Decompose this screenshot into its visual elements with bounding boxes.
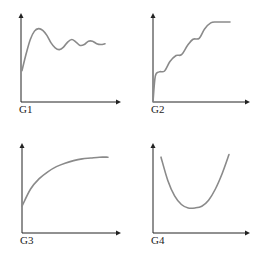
graph-label: G4 [151,234,165,246]
curve-saturating-growth [22,157,108,206]
y-axis-arrow-icon [151,13,156,18]
curve-u-shaped [161,155,229,209]
graph-g3: G3 [20,143,122,246]
graph-label: G3 [20,234,34,246]
x-axis-arrow-icon [245,231,250,236]
four-graphs-figure: G1G2G3G4 [0,0,278,255]
x-axis-arrow-icon [245,100,250,105]
graph-label: G2 [151,103,164,115]
y-axis-arrow-icon [20,143,25,148]
graph-g4: G4 [151,143,251,246]
curve-damped-oscillation [22,29,105,71]
graph-g1: G1 [19,13,122,115]
y-axis-arrow-icon [151,143,156,148]
y-axis-arrow-icon [19,13,24,18]
x-axis-arrow-icon [116,231,121,236]
graph-g2: G2 [151,13,251,115]
graph-label: G1 [19,103,32,115]
curve-staircase-rise [153,22,230,102]
x-axis-arrow-icon [116,100,121,105]
